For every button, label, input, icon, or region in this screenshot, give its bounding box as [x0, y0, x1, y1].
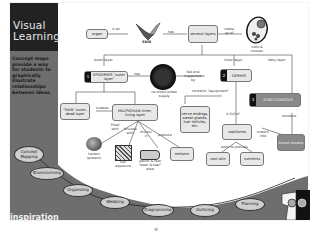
node-epidermis: 1 EPIDERMIS "outer layer"	[84, 71, 128, 83]
link-bruised-with: bruised with	[124, 128, 136, 136]
link-is-full-of: is full of	[226, 113, 239, 117]
node-capillaries: capillaries	[222, 124, 252, 140]
node-melanin-label: melanin	[175, 152, 189, 156]
node-nutrients: nutrients	[240, 152, 264, 166]
node-organ-label: organ	[92, 32, 102, 36]
skin-icon	[134, 22, 162, 42]
link-produce: produce	[158, 134, 172, 138]
node-melanin: melanin	[170, 147, 194, 161]
keratin-label: keratin (protein)	[84, 153, 104, 161]
node-dead-layer-label: "SKIN" outer, dead layer	[61, 108, 89, 116]
node-malpighian-label: MALPIGHIAN inner, living layer	[113, 109, 157, 117]
step-brainstorming[interactable]: Brainstorming	[30, 167, 64, 180]
node-malpighian: MALPIGHIAN inner, living layer	[112, 104, 158, 121]
node-epidermis-label: EPIDERMIS "outer layer"	[91, 73, 127, 81]
node-subcutaneous-label: SUBCUTANEOUS	[263, 98, 293, 102]
link-branch-into: branch into	[256, 131, 270, 139]
step-outlining[interactable]: Outlining	[190, 204, 220, 217]
node-nerve-endings-label: nerve endings, sweat glands, hair follic…	[181, 112, 209, 128]
node-capillaries-label: capillaries	[228, 130, 246, 134]
link-contains: contains	[282, 115, 296, 119]
node-several-layers: several layers	[188, 25, 218, 43]
step-organizing[interactable]: Organizing	[63, 184, 93, 197]
link-fed-supported: fed and supported by	[182, 71, 204, 82]
link-has-2: has	[134, 73, 140, 77]
link-made-up-of: made up of	[222, 28, 236, 36]
sun-exposure-icon	[115, 145, 132, 161]
link-work-to-provide: work to provide	[221, 146, 248, 150]
cell-icon	[245, 15, 269, 45]
mascot-icon	[278, 190, 310, 220]
skin-label: SKIN	[142, 41, 151, 45]
link-has: has	[168, 31, 174, 35]
node-several-layers-label: several layers	[190, 32, 215, 36]
sun-exposure-label: sun exposure	[113, 161, 133, 169]
page-number: ⊘	[154, 226, 158, 232]
epidermis-number: 1	[85, 72, 91, 82]
link-inner-layer: inner layer	[224, 59, 242, 63]
keratin-icon	[86, 137, 102, 151]
node-dead-layer: "SKIN" outer, dead layer	[60, 103, 90, 120]
node-dermis: 2 DERMIS	[220, 69, 252, 82]
node-cool-skin: cool skin	[206, 152, 230, 166]
step-planning[interactable]: Planning	[235, 198, 265, 211]
node-blood-vessels-label: blood vessels	[279, 141, 303, 145]
subcutaneous-number: 3	[250, 94, 256, 106]
link-thicker-in: thicker in	[140, 131, 152, 139]
link-filled-with: filled with	[109, 124, 121, 132]
no-blood-supply-icon	[150, 64, 176, 90]
node-dermis-label: DERMIS	[232, 74, 246, 78]
link-creates: creates	[96, 107, 109, 111]
node-organ: organ	[86, 29, 108, 39]
node-nerve-endings: nerve endings, sweat glands, hair follic…	[180, 106, 210, 133]
step-webbing[interactable]: Webbing	[100, 196, 130, 209]
link-is-an: is an	[112, 28, 120, 32]
node-cool-skin-label: cool skin	[210, 157, 226, 161]
dermis-number: 2	[221, 70, 227, 81]
node-nutrients-label: nutrients	[244, 157, 260, 161]
cells-label: cells & tissues	[249, 46, 265, 54]
brand-logo: inspiration	[10, 213, 59, 222]
palms-feet-label: palms & feet "wear & tear" area	[136, 160, 164, 171]
link-outer-layer: outer layer	[94, 59, 113, 63]
link-contains-equipment: contains "equipment"	[192, 90, 229, 94]
node-blood-vessels: blood vessels	[277, 134, 305, 151]
link-fatty-layer: fatty layer	[268, 59, 286, 63]
step-diagramming[interactable]: Diagramming	[142, 204, 174, 217]
no-blood-supply-label: no direct blood supply	[150, 91, 178, 99]
step-concept-mapping[interactable]: Concept Mapping	[14, 146, 44, 163]
node-subcutaneous: 3 SUBCUTANEOUS	[249, 93, 301, 107]
